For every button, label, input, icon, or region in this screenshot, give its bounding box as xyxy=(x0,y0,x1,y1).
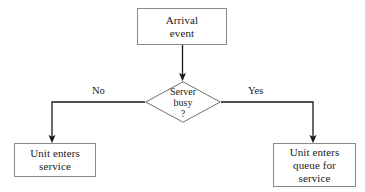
node-unit-enters-queue[interactable]: Unit enters queue for service xyxy=(273,143,356,187)
decision-line-2: busy xyxy=(174,97,193,108)
node-unit-enters-service[interactable]: Unit enters service xyxy=(14,143,96,177)
branch-label-no: No xyxy=(92,85,105,96)
node-server-busy-decision-label: Server busy ? xyxy=(145,81,221,123)
connector-no-branch xyxy=(52,102,145,139)
flowchart-canvas: Arrival event Server busy ? No Yes Unit … xyxy=(0,0,365,192)
branch-label-yes: Yes xyxy=(248,85,263,96)
decision-line-1: Server xyxy=(170,86,196,97)
node-unit-enters-service-label: Unit enters service xyxy=(30,147,80,173)
node-server-busy-decision[interactable]: Server busy ? xyxy=(145,81,221,123)
connector-yes-branch xyxy=(221,102,313,139)
node-arrival-event[interactable]: Arrival event xyxy=(137,8,227,45)
node-unit-enters-queue-label: Unit enters queue for service xyxy=(290,146,340,185)
node-arrival-event-label: Arrival event xyxy=(166,14,198,40)
decision-line-3: ? xyxy=(181,108,185,119)
